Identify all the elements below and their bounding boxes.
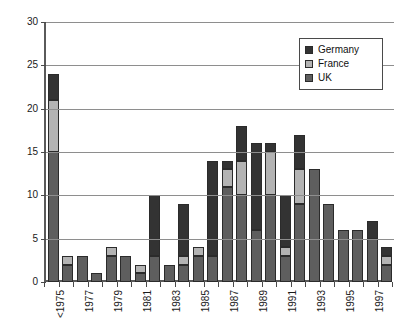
- bar-1998: [381, 247, 392, 282]
- x-axis-tick-label: 1985: [200, 290, 211, 312]
- bar-1994: [323, 204, 334, 282]
- y-tick: [41, 109, 46, 110]
- x-axis-tick-label: <1975: [55, 290, 66, 318]
- bar-segment-uk: [48, 152, 59, 282]
- bar-segment-uk: [62, 265, 73, 282]
- y-tick: [41, 22, 46, 23]
- x-axis-tick-label: 1991: [287, 290, 298, 312]
- bar-1987: [222, 161, 233, 282]
- gridline: [46, 195, 394, 196]
- x-tick: [146, 282, 147, 287]
- y-tick: [41, 65, 46, 66]
- y-axis-tick-label: 15: [14, 147, 38, 157]
- x-tick: [334, 282, 335, 287]
- y-axis-tick-label: 10: [14, 190, 38, 200]
- bar-segment-germany: [265, 143, 276, 152]
- gridline: [46, 239, 394, 240]
- stacked-bar-chart: 051015202530 <19751977197919811983198519…: [0, 0, 410, 334]
- x-tick: [117, 282, 118, 287]
- y-tick: [41, 195, 46, 196]
- y-tick: [41, 239, 46, 240]
- x-tick: [320, 282, 321, 287]
- bar-1990: [265, 143, 276, 282]
- bar-segment-uk: [178, 265, 189, 282]
- x-tick: [218, 282, 219, 287]
- x-axis-labels: <197519771979198119831985198719891991199…: [44, 288, 392, 334]
- x-tick: [44, 282, 45, 287]
- bar-segment-germany: [149, 195, 160, 256]
- x-axis-tick-label: 1987: [229, 290, 240, 312]
- bar-segment-uk: [106, 256, 117, 282]
- bar-segment-france: [265, 152, 276, 195]
- y-tick: [41, 152, 46, 153]
- x-tick: [102, 282, 103, 287]
- bar-segment-uk: [381, 265, 392, 282]
- bar-segment-germany: [207, 161, 218, 256]
- x-tick: [59, 282, 60, 287]
- bar-1989: [251, 143, 262, 282]
- bar-1997: [367, 221, 378, 282]
- x-tick: [189, 282, 190, 287]
- bar-1985: [193, 247, 204, 282]
- x-tick: [88, 282, 89, 287]
- x-axis-tick-label: 1977: [84, 290, 95, 312]
- x-tick: [131, 282, 132, 287]
- chart-legend: Germany France UK: [299, 38, 383, 90]
- x-tick: [204, 282, 205, 287]
- bar-segment-uk: [91, 273, 102, 282]
- legend-item-germany: Germany: [305, 43, 377, 57]
- bar-segment-germany: [48, 74, 59, 100]
- uk-swatch: [305, 74, 313, 82]
- bar-segment-france: [193, 247, 204, 256]
- bar-segment-uk: [323, 204, 334, 282]
- bar-segment-germany: [178, 204, 189, 256]
- bar-segment-germany: [251, 143, 262, 230]
- bar-segment-uk: [149, 256, 160, 282]
- bar-segment-france: [236, 161, 247, 196]
- x-tick: [262, 282, 263, 287]
- legend-label-germany: Germany: [318, 45, 359, 55]
- bar-1980: [120, 256, 131, 282]
- bar-segment-uk: [280, 256, 291, 282]
- legend-item-france: France: [305, 57, 377, 71]
- x-tick: [73, 282, 74, 287]
- gridline: [46, 152, 394, 153]
- gridline: [46, 109, 394, 110]
- bar-segment-uk: [294, 204, 305, 282]
- y-axis-tick-label: 30: [14, 17, 38, 27]
- bar-segment-uk: [309, 169, 320, 282]
- x-tick: [175, 282, 176, 287]
- x-axis-tick-label: 1995: [345, 290, 356, 312]
- bar-segment-france: [381, 256, 392, 265]
- bar-1976: [62, 256, 73, 282]
- x-axis-tick-label: 1981: [142, 290, 153, 312]
- bar-1993: [309, 169, 320, 282]
- bar-segment-uk: [77, 256, 88, 282]
- y-axis-tick-label: 25: [14, 60, 38, 70]
- bar-segment-france: [222, 169, 233, 186]
- bar-1978: [91, 273, 102, 282]
- bar-segment-france: [62, 256, 73, 265]
- x-tick: [276, 282, 277, 287]
- bar-segment-uk: [135, 273, 146, 282]
- x-axis-tick-label: 1997: [374, 290, 385, 312]
- bar-segment-france: [106, 247, 117, 256]
- bar-1992: [294, 135, 305, 282]
- legend-label-france: France: [318, 59, 349, 69]
- x-tick: [233, 282, 234, 287]
- bar-segment-uk: [164, 265, 175, 282]
- bar-1984: [178, 204, 189, 282]
- bar-1986: [207, 161, 218, 282]
- x-tick: [247, 282, 248, 287]
- bar-segment-germany: [236, 126, 247, 161]
- bar-1988: [236, 126, 247, 282]
- x-axis-tick-label: 1993: [316, 290, 327, 312]
- bar-1979: [106, 247, 117, 282]
- bar-segment-germany: [367, 221, 378, 238]
- bar-segment-france: [294, 169, 305, 204]
- x-tick: [291, 282, 292, 287]
- x-tick: [378, 282, 379, 287]
- y-axis-tick-label: 0: [14, 277, 38, 287]
- bar-segment-uk: [193, 256, 204, 282]
- x-tick: [305, 282, 306, 287]
